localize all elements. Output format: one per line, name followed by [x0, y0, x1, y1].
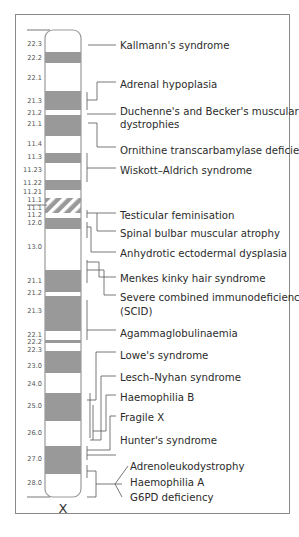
disease-label: Kallmann's syndrome: [120, 40, 229, 51]
band-13-0: [45, 229, 81, 270]
band-22-1: [45, 63, 81, 91]
disease-label: Anhydrotic ectodermal dysplasia: [120, 248, 287, 259]
disease-label: Lowe's syndrome: [120, 350, 208, 361]
band-label: 23.0: [27, 362, 42, 370]
band-label: 13.0: [27, 243, 42, 251]
band-22-2: [45, 52, 81, 63]
band-11-21: [45, 190, 81, 198]
band-label: 28.0: [27, 479, 42, 487]
band-labels: 22.322.222.121.321.221.111.411.311.2311.…: [23, 40, 42, 487]
disease-label: Hunter's syndrome: [120, 435, 217, 446]
disease-label: (SCID): [120, 306, 152, 317]
band-label: 11.22: [23, 179, 42, 187]
chromosome-name: X: [59, 501, 68, 516]
disease-label: Menkes kinky hair syndrome: [120, 273, 265, 284]
band-label: 11.2: [27, 211, 42, 219]
disease-label: Lesch–Nyhan syndrome: [120, 372, 241, 383]
band-label: 27.0: [27, 455, 42, 463]
x-chromosome-diagram: 22.322.222.121.321.221.111.411.311.2311.…: [0, 0, 299, 537]
band-12-0: [45, 218, 81, 229]
disease-label: G6PD deficiency: [130, 492, 214, 503]
band-22-1: [45, 331, 81, 340]
band-11-3: [45, 153, 81, 163]
band-27-0: [45, 446, 81, 474]
band-label: 11.23: [23, 166, 42, 174]
band-label: 21.3: [27, 97, 42, 105]
band-label: 11.21: [23, 188, 42, 196]
disease-label: Spinal bulbar muscular atrophy: [120, 228, 280, 239]
band-label: 22.2: [27, 338, 42, 346]
band-21-1: [45, 115, 81, 136]
band-label: 22.2: [27, 54, 42, 62]
band-26-0: [45, 421, 81, 446]
band-label: 11.3: [27, 153, 42, 161]
band-21-3: [45, 296, 81, 331]
band-label: 22.1: [27, 74, 42, 82]
band-label: 21.1: [27, 120, 42, 128]
band-label: 22.3: [27, 40, 42, 48]
band-label: 21.2: [27, 289, 42, 297]
disease-label: Adrenoleukodystrophy: [130, 461, 244, 472]
band-11-23: [45, 163, 81, 180]
band-21-3: [45, 91, 81, 110]
band-label: 21.1: [27, 277, 42, 285]
disease-labels: Kallmann's syndromeAdrenal hypoplasiaDuc…: [119, 40, 299, 503]
band-22-2: [45, 340, 81, 343]
chromosome-bands: [45, 30, 81, 497]
band-label: 22.3: [27, 346, 42, 354]
band-label: 12.0: [27, 219, 42, 227]
band-21-2: [45, 292, 81, 296]
band-22-3: [45, 30, 81, 52]
band-label: 26.0: [27, 429, 42, 437]
disease-label: Adrenal hypoplasia: [120, 79, 217, 90]
band-21-1: [45, 270, 81, 292]
band-23-0: [45, 351, 81, 373]
band-label: 21.3: [27, 307, 42, 315]
band-11-4: [45, 136, 81, 153]
band-24-0: [45, 373, 81, 393]
disease-label: Severe combined immunodeficiency: [120, 292, 299, 303]
band-label: 24.0: [27, 380, 42, 388]
band-label: 21.2: [27, 109, 42, 117]
band-22-3: [45, 343, 81, 351]
disease-label: dystrophies: [120, 119, 179, 130]
disease-label: Testicular feminisation: [119, 210, 234, 221]
disease-label: Haemophilia B: [120, 392, 194, 403]
band-label: 25.0: [27, 402, 42, 410]
band-11-1: [45, 198, 81, 213]
band-25-0: [45, 393, 81, 421]
band-label: 11.1: [27, 196, 42, 204]
disease-label: Agammaglobulinaemia: [120, 328, 238, 339]
band-28-0: [45, 474, 81, 497]
band-11-2: [45, 213, 81, 218]
disease-label: Wiskott–Aldrich syndrome: [120, 165, 252, 176]
disease-label: Ornithine transcarbamylase deficiency: [120, 145, 299, 156]
disease-label: Duchenne's and Becker's muscular: [120, 106, 299, 117]
band-21-2: [45, 110, 81, 115]
disease-label: Fragile X: [120, 412, 164, 423]
band-11-22: [45, 180, 81, 190]
disease-label: Haemophilia A: [130, 477, 204, 488]
band-label: 11.4: [27, 140, 42, 148]
